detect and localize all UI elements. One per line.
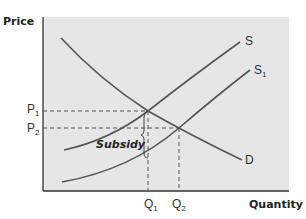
- label-q1: Q1: [144, 197, 158, 213]
- x-axis-label: Quantity: [249, 198, 303, 211]
- label-p2: P2: [27, 121, 40, 137]
- label-s: S: [245, 34, 253, 48]
- subsidy-diagram: Price Quantity S S1 D P1 P2 Q1 Q2 Subsid…: [0, 0, 306, 219]
- subsidy-label: Subsidy: [96, 138, 146, 151]
- label-d: D: [245, 153, 254, 167]
- y-axis-label: Price: [3, 15, 34, 28]
- label-q2: Q2: [172, 197, 186, 213]
- label-p1: P1: [27, 102, 40, 118]
